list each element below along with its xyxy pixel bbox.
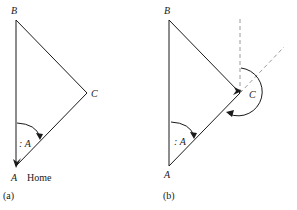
vertex-label-C: C <box>91 88 98 99</box>
edge-b-BC <box>169 20 240 93</box>
panel-b: B C A : A (b) <box>163 5 284 202</box>
panel-caption: (b) <box>163 190 175 202</box>
panel-a: B C A Home : A (a) <box>3 5 98 202</box>
vertex-label-C: C <box>249 89 256 100</box>
turn-arrowhead-icon <box>226 110 234 117</box>
vertex-label-A: A <box>163 169 171 180</box>
turtle-arrowhead-icon <box>233 87 242 95</box>
home-label: Home <box>27 172 52 183</box>
angle-label: : A <box>19 138 32 149</box>
vertex-label-B: B <box>164 5 170 16</box>
panel-caption: (a) <box>3 190 14 202</box>
vertex-label-A: A <box>10 172 18 183</box>
turtle-arrowhead-icon <box>13 158 21 168</box>
edge-b-CA <box>169 93 240 166</box>
edge-a-BC <box>16 20 87 93</box>
vertex-label-B: B <box>11 5 17 16</box>
angle-arc-a <box>17 123 40 137</box>
triangle-turtle-diagram: B C A Home : A (a) B C A : A (b) <box>0 0 297 210</box>
angle-arc-b <box>171 122 194 136</box>
edge-a-CA <box>16 93 87 166</box>
angle-label: : A <box>174 136 187 147</box>
